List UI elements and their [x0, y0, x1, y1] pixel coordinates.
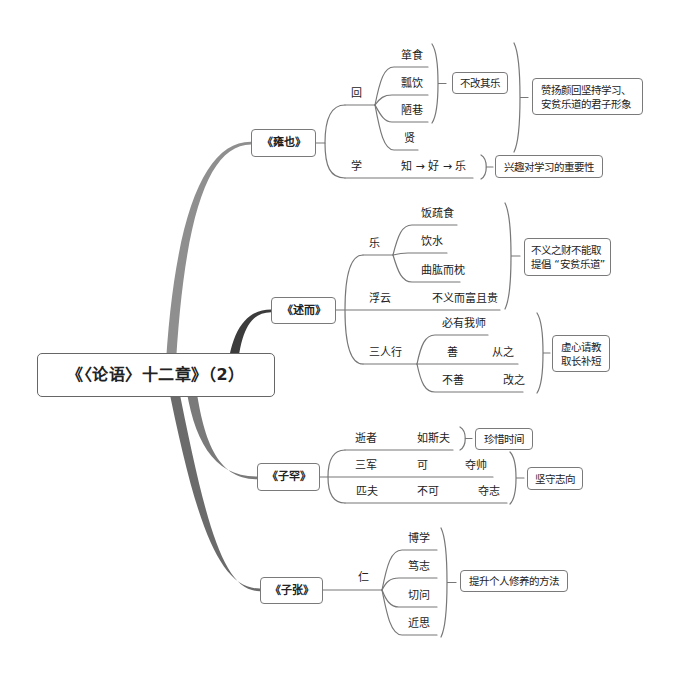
topic-shizhe: 逝者 [355, 432, 377, 445]
summary-box-sanrenxing: 虚心请教 取长补短 [552, 335, 610, 372]
branch-node-yongye: 《雍也》 [251, 129, 316, 157]
topic-le: 乐 [369, 237, 380, 250]
branch-zizhang [167, 380, 260, 591]
leaf-qugongerzhen: 曲肱而枕 [421, 264, 465, 277]
bracket-shizhe-summary [460, 427, 472, 450]
leaf-duzhi: 笃志 [408, 560, 430, 573]
col-buke: 不可 [417, 485, 439, 498]
summary-text: 提升个人修养的方法 [469, 574, 559, 588]
leaf-jinsi: 近思 [408, 617, 430, 630]
detail-rusifu: 如斯夫 [417, 432, 450, 445]
leaf-yinshui: 饮水 [421, 235, 443, 248]
summary-text: 不改其乐 [460, 76, 500, 90]
mind-map-canvas: 《〈论语〉十二章》（2） 《雍也》 回 箪食 瓢饮 陋巷 贤 不改其乐 赞扬颜回… [0, 0, 676, 676]
summary-box-xue: 兴趣对学习的重要性 [495, 155, 603, 178]
summary-box-zihan: 坚守志向 [527, 467, 583, 490]
bracket-zizhang-summary [441, 528, 456, 637]
summary-line-2: 安贫乐道的君子形象 [541, 97, 631, 111]
leaf-shan: 善 [447, 346, 458, 359]
bracket-shuer-summary [505, 203, 520, 309]
branch-label: 《雍也》 [262, 136, 306, 150]
summary-line-1: 虚心请教 [561, 340, 601, 354]
branch-label: 《述而》 [282, 304, 326, 318]
root-node: 《〈论语〉十二章》（2） [37, 353, 275, 397]
topic-fuyun: 浮云 [369, 292, 391, 305]
leaf-louxiang: 陋巷 [401, 104, 423, 117]
bracket-yongye-summary [514, 43, 528, 152]
branch-node-shuer: 《述而》 [271, 297, 336, 324]
leaf-qiewen: 切问 [408, 589, 430, 602]
connector-yongye-split [325, 105, 345, 178]
topic-sanrenxing: 三人行 [369, 346, 402, 359]
col-duozhi: 夺志 [478, 485, 500, 498]
summary-box-zizhang: 提升个人修养的方法 [460, 570, 568, 592]
bracket-xue-summary [481, 155, 493, 179]
summary-box-shizhe: 珍惜时间 [475, 428, 533, 450]
summary-line-1: 赞扬颜回坚持学习、 [541, 83, 631, 97]
topic-sanjun: 三军 [355, 459, 377, 472]
summary-box-shuer: 不义之财不能取 提倡 “安贫乐道” [524, 238, 611, 276]
leaf-bushan-detail: 改之 [503, 374, 525, 387]
root-title: 《〈论语〉十二章》（2） [67, 368, 244, 382]
detail-buyi-erfu-qiegui: 不义而富且贵 [432, 292, 498, 305]
leaf-boxue: 博学 [408, 532, 430, 545]
leaf-piaoyin: 瓢饮 [401, 77, 423, 90]
leaf-shan-detail: 从之 [492, 346, 514, 359]
topic-hui: 回 [351, 87, 362, 100]
topic-pifu: 匹夫 [356, 485, 378, 498]
summary-text: 兴趣对学习的重要性 [504, 160, 594, 174]
bracket-bugaiqile [432, 44, 446, 123]
topic-ren: 仁 [358, 571, 369, 584]
leaf-biyouwoshi: 必有我师 [442, 317, 486, 330]
col-duoshuai: 夺帅 [465, 459, 487, 472]
bracket-sanrenxing-summary [537, 313, 550, 393]
detail-zhi-hao-le: 知 → 好 → 乐 [401, 160, 466, 173]
line-yinshui [393, 253, 447, 255]
summary-box-yongye: 赞扬颜回坚持学习、 安贫乐道的君子形象 [532, 78, 643, 115]
branch-node-zizhang: 《子张》 [260, 577, 323, 604]
summary-box-bugaiqile: 不改其乐 [452, 72, 508, 94]
summary-line-2: 提倡 “安贫乐道” [531, 257, 605, 271]
leaf-bushan: 不善 [442, 374, 464, 387]
branch-node-zihan: 《子罕》 [257, 463, 320, 491]
topic-xue: 学 [351, 160, 362, 173]
summary-line-1: 不义之财不能取 [531, 243, 601, 257]
col-ke: 可 [417, 459, 428, 472]
summary-text: 坚守志向 [535, 472, 575, 486]
leaf-fanshushi: 饭疏食 [421, 207, 454, 220]
summary-text: 珍惜时间 [484, 432, 524, 446]
branch-label: 《子张》 [270, 584, 314, 598]
leaf-xian: 贤 [404, 132, 415, 145]
leaf-danshi: 箪食 [401, 49, 423, 62]
summary-line-2: 取长补短 [561, 354, 601, 368]
bracket-zihan-summary [510, 452, 524, 504]
branch-label: 《子罕》 [267, 470, 311, 484]
